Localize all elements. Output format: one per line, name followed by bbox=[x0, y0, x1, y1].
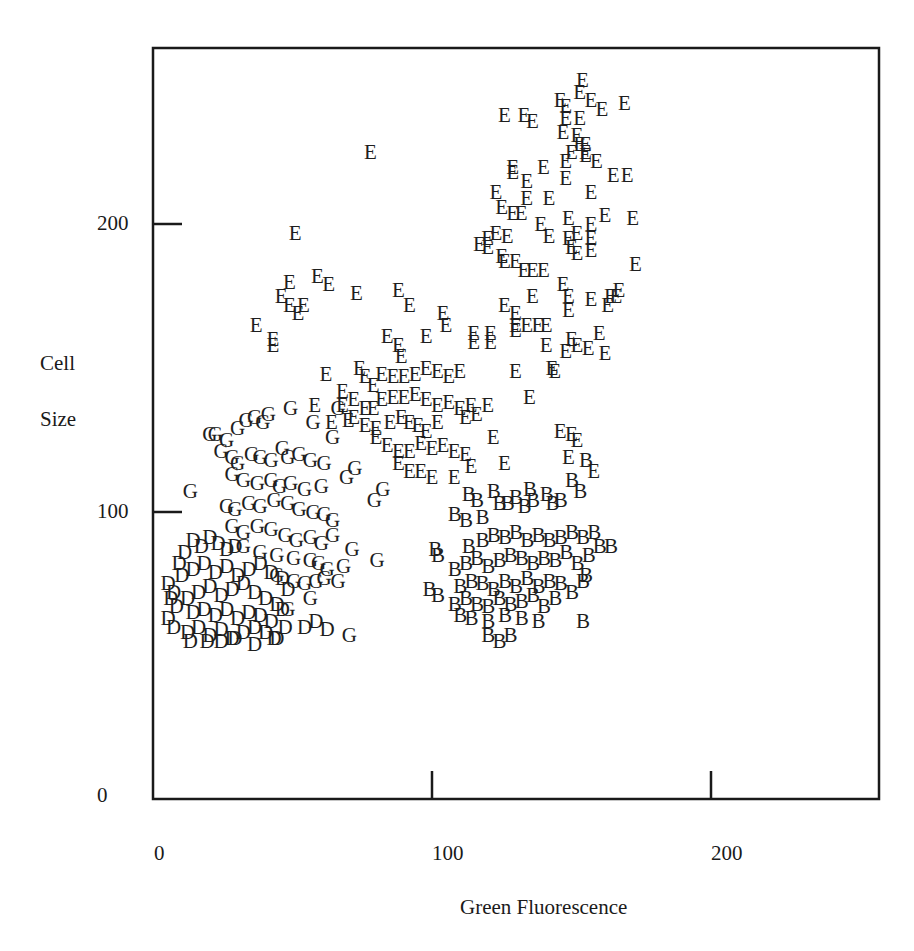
data-point: E bbox=[515, 201, 528, 225]
data-point: E bbox=[292, 301, 305, 325]
data-point: G bbox=[183, 479, 198, 503]
data-point: E bbox=[322, 272, 335, 296]
data-point: B bbox=[548, 586, 562, 610]
data-point: E bbox=[582, 336, 595, 360]
data-point: G bbox=[317, 566, 332, 590]
y-tick-label-200: 200 bbox=[97, 211, 129, 235]
data-point: E bbox=[498, 103, 511, 127]
data-point: G bbox=[283, 396, 298, 420]
data-point: E bbox=[420, 324, 433, 348]
data-point: B bbox=[531, 609, 545, 633]
data-point: G bbox=[303, 448, 318, 472]
data-point: E bbox=[590, 149, 603, 173]
data-point: D bbox=[183, 629, 198, 653]
scatter-chart: EEEEEEEEEEEEEEEEEEEEEEEEEEEEEEEEEEEEEEEE… bbox=[0, 0, 914, 951]
data-point: E bbox=[629, 252, 642, 276]
data-point: E bbox=[266, 333, 279, 357]
data-point: D bbox=[213, 629, 228, 653]
data-point: E bbox=[470, 402, 483, 426]
data-point: E bbox=[364, 140, 377, 164]
data-point: E bbox=[526, 109, 539, 133]
data-point: E bbox=[487, 425, 500, 449]
data-point: E bbox=[596, 97, 609, 121]
data-point: E bbox=[425, 465, 438, 489]
x-tick-label-200: 200 bbox=[711, 841, 743, 865]
data-point: E bbox=[537, 258, 550, 282]
data-point: D bbox=[166, 615, 181, 639]
data-point: D bbox=[319, 617, 334, 641]
data-point: G bbox=[325, 425, 340, 449]
data-point: E bbox=[562, 445, 575, 469]
data-point: E bbox=[431, 410, 444, 434]
data-point: E bbox=[571, 241, 584, 265]
x-axis-title: Green Fluorescence bbox=[460, 895, 627, 919]
chart-canvas: EEEEEEEEEEEEEEEEEEEEEEEEEEEEEEEEEEEEEEEE… bbox=[0, 0, 914, 951]
data-point: G bbox=[331, 396, 346, 420]
data-point: E bbox=[626, 206, 639, 230]
data-point: G bbox=[292, 497, 307, 521]
data-point: E bbox=[448, 465, 461, 489]
data-point: B bbox=[431, 543, 445, 567]
y-tick-label-100: 100 bbox=[97, 499, 129, 523]
data-point: E bbox=[598, 203, 611, 227]
data-point: E bbox=[465, 454, 478, 478]
data-point: D bbox=[275, 566, 290, 590]
data-point: D bbox=[227, 626, 242, 650]
data-point: G bbox=[370, 548, 385, 572]
data-point: E bbox=[481, 226, 494, 250]
data-point: B bbox=[604, 534, 618, 558]
data-point: E bbox=[509, 318, 522, 342]
data-point: B bbox=[579, 448, 593, 472]
data-point: E bbox=[537, 155, 550, 179]
data-point: E bbox=[289, 221, 302, 245]
data-point: D bbox=[278, 615, 293, 639]
data-point: E bbox=[250, 313, 263, 337]
data-point: G bbox=[250, 514, 265, 538]
data-point: E bbox=[543, 186, 556, 210]
data-point: E bbox=[621, 163, 634, 187]
data-point: E bbox=[509, 359, 522, 383]
data-point: E bbox=[523, 385, 536, 409]
data-point: E bbox=[579, 140, 592, 164]
y-tick-label-0: 0 bbox=[97, 783, 108, 807]
data-point: B bbox=[526, 488, 540, 512]
data-points: EEEEEEEEEEEEEEEEEEEEEEEEEEEEEEEEEEEEEEEE… bbox=[160, 68, 642, 656]
data-point: G bbox=[331, 569, 346, 593]
data-point: B bbox=[579, 563, 593, 587]
data-point: E bbox=[585, 287, 598, 311]
data-point: G bbox=[367, 488, 382, 512]
data-point: E bbox=[453, 359, 466, 383]
data-point: D bbox=[247, 632, 262, 656]
y-axis-title-line1: Cell bbox=[40, 351, 75, 375]
data-point: E bbox=[548, 359, 561, 383]
data-point: B bbox=[554, 488, 568, 512]
x-tick-label-0: 0 bbox=[154, 841, 165, 865]
data-point: E bbox=[540, 333, 553, 357]
data-point: E bbox=[576, 68, 589, 92]
data-point: B bbox=[459, 508, 473, 532]
data-point: G bbox=[342, 623, 357, 647]
data-point: E bbox=[557, 120, 570, 144]
data-point: E bbox=[467, 330, 480, 354]
data-point: B bbox=[504, 623, 518, 647]
y-axis-title-line2: Size bbox=[40, 407, 76, 431]
data-point: E bbox=[559, 94, 572, 118]
data-point: G bbox=[305, 410, 320, 434]
data-point: G bbox=[325, 523, 340, 547]
x-tick-label-100: 100 bbox=[432, 841, 464, 865]
data-point: E bbox=[562, 298, 575, 322]
data-point: E bbox=[319, 362, 332, 386]
data-point: E bbox=[506, 160, 519, 184]
data-point: G bbox=[317, 451, 332, 475]
data-point: E bbox=[585, 238, 598, 262]
data-point: B bbox=[465, 606, 479, 630]
data-point: E bbox=[618, 91, 631, 115]
data-point: G bbox=[314, 474, 329, 498]
data-point: E bbox=[403, 293, 416, 317]
data-point: E bbox=[350, 281, 363, 305]
data-point: D bbox=[199, 629, 214, 653]
data-point: G bbox=[347, 456, 362, 480]
data-point: G bbox=[264, 517, 279, 541]
data-point: G bbox=[236, 468, 251, 492]
data-point: E bbox=[604, 284, 617, 308]
